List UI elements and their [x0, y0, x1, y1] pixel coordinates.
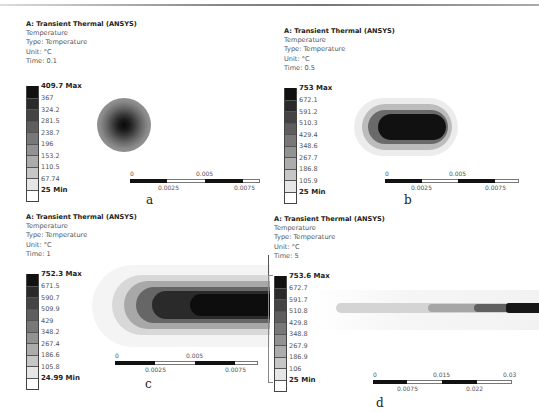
result-time: Time: 5 [274, 252, 385, 261]
scale-tick: 0 [373, 371, 377, 378]
analysis-title: A: Transient Thermal (ANSYS) [26, 213, 137, 222]
legend-value: 186.6 [41, 351, 60, 359]
result-type: Type: Temperature [274, 233, 385, 242]
legend-value: 590.7 [41, 294, 60, 302]
legend-max: 752.3 Max [41, 270, 82, 278]
distance-scale: 0 0.0025 0.005 0.0075 [115, 352, 258, 376]
panel-caption: c [145, 377, 152, 391]
legend-value: 106 [289, 365, 301, 373]
legend-value: 153.2 [41, 152, 60, 160]
legend-min: 25 Min [41, 186, 68, 194]
temperature-contour-core [506, 303, 539, 313]
legend-value: 324.2 [41, 106, 60, 114]
analysis-title: A: Transient Thermal (ANSYS) [274, 215, 385, 224]
legend-value: 110.5 [41, 163, 60, 171]
legend-value: 429 [41, 317, 53, 325]
scale-tick: 0.005 [196, 170, 213, 177]
panel-header: A: Transient Thermal (ANSYS) Temperature… [274, 215, 385, 261]
legend-value: 267.9 [289, 342, 308, 350]
scale-tick: 0.022 [466, 385, 483, 392]
temperature-contour-spot [97, 98, 151, 152]
panel-a: A: Transient Thermal (ANSYS) Temperature… [0, 0, 270, 205]
panel-header: A: Transient Thermal (ANSYS) Temperature… [26, 213, 137, 259]
scale-tick: 0.015 [433, 371, 450, 378]
legend-bracket [268, 275, 273, 383]
result-type: Type: Temperature [284, 45, 395, 54]
panel-caption: d [376, 396, 384, 410]
scale-tick: 0.0075 [485, 184, 506, 191]
legend-value: 591.2 [299, 108, 318, 116]
legend-value: 367 [41, 94, 53, 102]
scale-tick: 0 [115, 352, 119, 359]
panel-d: A: Transient Thermal (ANSYS) Temperature… [270, 205, 539, 413]
legend-max: 753.6 Max [289, 272, 330, 280]
legend-value: 429.8 [289, 319, 308, 327]
legend-value: 238.7 [41, 129, 60, 137]
scale-tick: 0.0075 [397, 385, 418, 392]
panel-header: A: Transient Thermal (ANSYS) Temperature… [26, 20, 137, 66]
result-time: Time: 1 [26, 250, 137, 259]
legend-value: 196 [41, 140, 53, 148]
scale-tick: 0.0075 [234, 184, 255, 191]
scale-tick: 0.0025 [411, 184, 432, 191]
result-unit: Unit: °C [284, 55, 395, 64]
legend-min: 24.99 Min [41, 374, 80, 382]
panel-header: A: Transient Thermal (ANSYS) Temperature… [284, 27, 395, 73]
scale-tick: 0.005 [449, 170, 466, 177]
scale-tick: 0.0075 [225, 366, 246, 373]
scale-tick: 0.005 [186, 352, 203, 359]
scale-tick: 0.03 [503, 371, 516, 378]
legend-value: 186.9 [289, 353, 308, 361]
legend-value: 348.2 [41, 328, 60, 336]
analysis-title: A: Transient Thermal (ANSYS) [284, 27, 395, 36]
legend-value: 186.8 [299, 165, 318, 173]
result-name: Temperature [274, 224, 385, 233]
legend-value: 591.7 [289, 296, 308, 304]
legend-bar [26, 274, 39, 390]
scale-tick: 0 [385, 170, 389, 177]
legend-value: 509.9 [41, 305, 60, 313]
legend-value: 510.3 [299, 119, 318, 127]
result-time: Time: 0.5 [284, 64, 395, 73]
result-name: Temperature [284, 36, 395, 45]
legend-value: 267.7 [299, 154, 318, 162]
result-name: Temperature [26, 29, 137, 38]
legend-max: 753 Max [299, 84, 332, 92]
scale-tick: 0.0025 [145, 366, 166, 373]
legend-bar [284, 88, 297, 204]
result-unit: Unit: °C [26, 241, 137, 250]
panel-b: A: Transient Thermal (ANSYS) Temperature… [270, 0, 539, 205]
temperature-contour-peak [190, 294, 270, 316]
legend-value: 105.8 [41, 363, 60, 371]
legend-value: 429.4 [299, 131, 318, 139]
legend-value: 671.5 [41, 282, 60, 290]
result-type: Type: Temperature [26, 231, 137, 240]
distance-scale: 0 0.0075 0.015 0.022 0.03 [373, 371, 512, 395]
scale-tick: 0 [130, 170, 134, 177]
legend-value: 348.6 [299, 142, 318, 150]
distance-scale: 0 0.0025 0.005 0.0075 [385, 170, 519, 194]
legend-min: 25 Min [299, 188, 326, 196]
legend-value: 510.8 [289, 307, 308, 315]
result-type: Type: Temperature [26, 38, 137, 47]
result-unit: Unit: °C [274, 243, 385, 252]
legend-value: 105.9 [299, 177, 318, 185]
legend-value: 672.7 [289, 284, 308, 292]
legend-value: 281.5 [41, 117, 60, 125]
legend-value: 267.4 [41, 340, 60, 348]
legend-bar [274, 276, 287, 392]
legend-min: 25 Min [289, 376, 316, 384]
legend-value: 672.1 [299, 96, 318, 104]
result-time: Time: 0.1 [26, 57, 137, 66]
legend-max: 409.7 Max [41, 82, 82, 90]
analysis-title: A: Transient Thermal (ANSYS) [26, 20, 137, 29]
legend-value: 348.8 [289, 330, 308, 338]
temperature-contour-core [378, 114, 446, 140]
result-unit: Unit: °C [26, 48, 137, 57]
legend-value: 67.74 [41, 175, 60, 183]
result-name: Temperature [26, 222, 137, 231]
panel-c: A: Transient Thermal (ANSYS) Temperature… [0, 205, 270, 413]
legend-bar [26, 86, 39, 202]
scale-tick: 0.0025 [158, 184, 179, 191]
distance-scale: 0 0.0025 0.005 0.0075 [130, 170, 260, 194]
